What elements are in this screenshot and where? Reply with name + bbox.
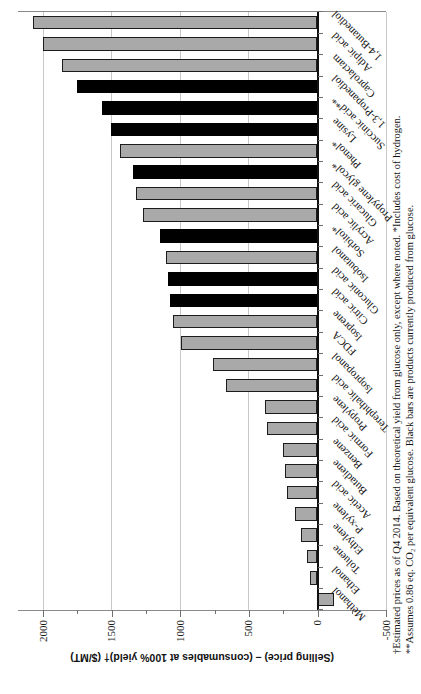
value-minor-tick-750	[215, 610, 216, 614]
chart-canvas: 2000150010005000-500MethanolEthanolTolue…	[0, 0, 421, 694]
category-tick-4	[318, 524, 324, 525]
value-axis-line	[18, 610, 386, 611]
bar-Isoprene	[173, 315, 318, 329]
category-tick-7	[318, 460, 324, 461]
value-tick-label-2000: 2000	[37, 620, 50, 664]
bar-1,4-Butanediol	[33, 16, 318, 30]
category-tick-9	[318, 417, 324, 418]
category-tick-25	[318, 76, 324, 77]
category-tick-10	[318, 396, 324, 397]
gridline-2000	[43, 12, 44, 610]
bar-Benzene	[283, 443, 317, 457]
value-axis-title: (Selling price) – (consumables at 100% y…	[70, 652, 334, 664]
bar-Isopropanol	[213, 358, 317, 372]
footnote-line-1: †Estimated prices as of Q4 2014. Based o…	[391, 116, 403, 654]
bar-Butadiene	[285, 464, 317, 478]
category-tick-24	[318, 97, 324, 98]
gridline--500	[386, 12, 387, 610]
category-tick-11	[318, 375, 324, 376]
category-tick-0	[318, 610, 324, 611]
category-tick-18	[318, 225, 324, 226]
category-tick-21	[318, 161, 324, 162]
category-tick-2	[318, 567, 324, 568]
value-minor-tick-1250	[146, 610, 147, 614]
bar-Sorbitol*	[160, 230, 318, 244]
category-tick-17	[318, 246, 324, 247]
category-tick-15	[318, 289, 324, 290]
category-tick-13	[318, 332, 324, 333]
category-tick-8	[318, 439, 324, 440]
value-major-tick-0	[318, 610, 319, 617]
value-minor-tick-250	[283, 610, 284, 614]
category-tick-22	[318, 140, 324, 141]
bar-Adipic acid	[43, 37, 317, 51]
category-tick-26	[318, 54, 324, 55]
bar-P-xylene	[295, 507, 318, 521]
bar-1,3-Propanediol	[77, 80, 318, 94]
category-tick-16	[318, 268, 324, 269]
bar-Succinic acid**	[102, 101, 317, 115]
category-tick-23	[318, 118, 324, 119]
bar-Acetic acid	[287, 486, 317, 500]
category-tick-28	[318, 12, 324, 13]
value-major-tick-1000	[180, 610, 181, 617]
bar-Lysine	[111, 123, 317, 137]
category-tick-19	[318, 204, 324, 205]
value-major-tick-2000	[43, 610, 44, 617]
footnote-line-2: **Assumes 0.86 eq. CO₂ per equivalent gl…	[404, 205, 416, 654]
bar-Glucaric acid	[136, 187, 318, 201]
value-major-tick-500	[249, 610, 250, 617]
category-tick-6	[318, 481, 324, 482]
plot-right-border	[18, 11, 386, 12]
rotated-figure: 2000150010005000-500MethanolEthanolTolue…	[0, 0, 421, 694]
category-tick-3	[318, 545, 324, 546]
figure-viewport: 2000150010005000-500MethanolEthanolTolue…	[0, 0, 421, 694]
bar-Caprolactam	[62, 59, 318, 73]
category-tick-1	[318, 588, 324, 589]
bar-Propylene	[265, 400, 318, 414]
category-tick-5	[318, 503, 324, 504]
bar-Isobutanol	[166, 251, 318, 265]
bar-Phenol*	[120, 144, 318, 158]
category-tick-14	[318, 311, 324, 312]
category-tick-27	[318, 33, 324, 34]
bar-Propylene glycol*	[133, 165, 318, 179]
bar-Citric acid	[170, 294, 317, 308]
value-minor-tick-1750	[77, 610, 78, 614]
category-tick-12	[318, 353, 324, 354]
bar-FDCA	[181, 336, 318, 350]
bar-Formic acid	[267, 422, 318, 436]
bar-Ethylene	[301, 529, 317, 543]
value-major-tick--500	[386, 610, 387, 617]
value-major-tick-1500	[112, 610, 113, 617]
bar-Terephthalic acid	[226, 379, 317, 393]
category-tick-20	[318, 182, 324, 183]
bar-Gluconic acid	[168, 272, 318, 286]
bar-Acrylic acid	[143, 208, 317, 222]
